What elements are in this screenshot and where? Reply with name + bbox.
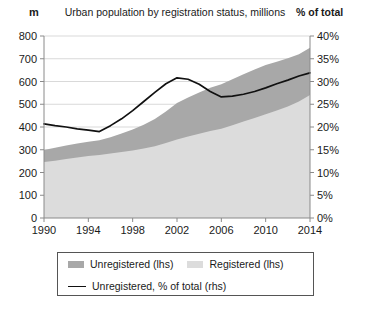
svg-text:25%: 25% <box>317 98 339 110</box>
svg-text:2002: 2002 <box>165 224 189 236</box>
svg-text:200: 200 <box>19 167 37 179</box>
legend-label-unregistered: Unregistered (lhs) <box>90 258 173 270</box>
legend-label-line: Unregistered, % of total (rhs) <box>92 280 226 292</box>
svg-text:100: 100 <box>19 189 37 201</box>
svg-text:15%: 15% <box>317 144 339 156</box>
svg-text:400: 400 <box>19 121 37 133</box>
svg-text:500: 500 <box>19 98 37 110</box>
svg-text:300: 300 <box>19 144 37 156</box>
chart-container: m Urban population by registration statu… <box>0 0 371 309</box>
legend-swatch-line <box>68 286 86 287</box>
svg-text:700: 700 <box>19 53 37 65</box>
svg-text:2006: 2006 <box>209 224 233 236</box>
chart-plot-area: 01002003004005006007008000%5%10%15%20%25… <box>0 0 371 250</box>
chart-legend: Unregistered (lhs) Registered (lhs) Unre… <box>57 252 314 296</box>
svg-text:30%: 30% <box>317 76 339 88</box>
svg-text:1998: 1998 <box>120 224 144 236</box>
svg-text:1990: 1990 <box>32 224 56 236</box>
legend-row-line: Unregistered, % of total (rhs) <box>58 275 313 297</box>
svg-text:0%: 0% <box>317 212 333 224</box>
svg-text:800: 800 <box>19 30 37 42</box>
legend-swatch-registered <box>187 261 203 268</box>
svg-text:20%: 20% <box>317 121 339 133</box>
svg-text:40%: 40% <box>317 30 339 42</box>
svg-text:0: 0 <box>31 212 37 224</box>
svg-text:600: 600 <box>19 76 37 88</box>
legend-swatch-unregistered <box>68 261 84 268</box>
svg-text:5%: 5% <box>317 189 333 201</box>
legend-label-registered: Registered (lhs) <box>209 258 283 270</box>
svg-text:2010: 2010 <box>253 224 277 236</box>
svg-text:10%: 10% <box>317 167 339 179</box>
svg-text:35%: 35% <box>317 53 339 65</box>
svg-text:1994: 1994 <box>76 224 100 236</box>
svg-text:2014: 2014 <box>298 224 322 236</box>
legend-row-areas: Unregistered (lhs) Registered (lhs) <box>58 253 313 275</box>
